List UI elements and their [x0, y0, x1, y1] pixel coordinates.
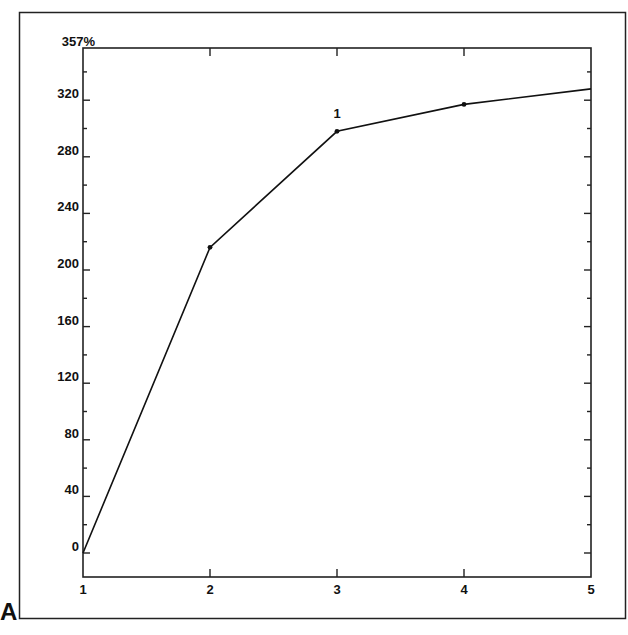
panel-label: A — [0, 598, 17, 625]
y-tick-label: 160 — [57, 313, 79, 328]
point-annotation: 1 — [333, 106, 340, 121]
y-tick-label: 320 — [57, 86, 79, 101]
y-tick-label: 120 — [57, 369, 79, 384]
x-tick-label: 4 — [460, 582, 468, 597]
y-tick-label: 200 — [57, 256, 79, 271]
line-chart: 04080120160200240280320357%123451 A — [0, 0, 628, 635]
data-point — [208, 245, 213, 250]
x-tick-label: 2 — [206, 582, 213, 597]
y-tick-label: 0 — [72, 539, 79, 554]
y-tick-label: 280 — [57, 143, 79, 158]
data-line — [83, 89, 591, 553]
plot-box — [83, 48, 591, 577]
data-point — [462, 102, 467, 107]
data-point — [335, 129, 340, 134]
plot-area: 04080120160200240280320357%123451 — [57, 34, 594, 597]
outer-frame — [20, 13, 626, 619]
x-tick-label: 5 — [587, 582, 594, 597]
y-tick-label: 40 — [65, 482, 79, 497]
x-tick-label: 3 — [333, 582, 340, 597]
y-max-label: 357% — [62, 34, 96, 49]
x-tick-label: 1 — [79, 582, 86, 597]
y-tick-label: 240 — [57, 199, 79, 214]
y-tick-label: 80 — [65, 426, 79, 441]
